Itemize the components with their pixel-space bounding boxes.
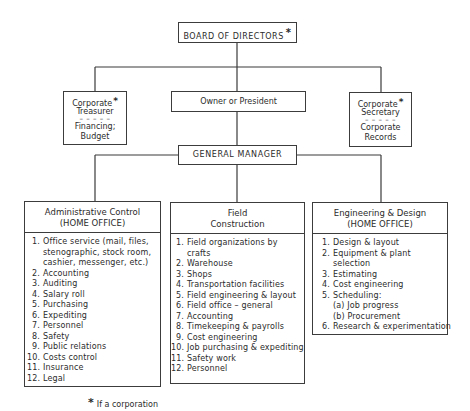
department-duty-list: 1.Office service (mail, files,stenograph… (25, 233, 160, 384)
item-text: Equipment & plant (333, 249, 411, 260)
list-item: 11.Insurance (27, 363, 160, 374)
item-number: 6. (171, 301, 184, 312)
item-text: Public relations (43, 342, 106, 353)
item-number: 10. (27, 353, 40, 364)
item-number: 4. (317, 280, 330, 291)
board-label: BOARD OF DIRECTORS (184, 32, 284, 41)
item-text: Scheduling: (333, 291, 400, 302)
item-text: Office service (mail, files, (43, 237, 151, 248)
department-duty-list: 1.Field organizations bycrafts 2.Warehou… (171, 234, 304, 375)
item-number: 11. (27, 363, 40, 374)
item-text: Safety (43, 332, 70, 343)
item-number: 11. (171, 354, 184, 365)
secretary-duty-line-2: Records (350, 133, 411, 143)
department-subtitle: (HOME OFFICE) (313, 219, 447, 230)
item-number: 2. (171, 259, 184, 270)
item-text: Field engineering & layout (187, 291, 296, 302)
list-item: 9.Public relations (27, 342, 160, 353)
item-number: 1. (27, 237, 40, 269)
treasurer-title-line-1: Corporate* (64, 97, 126, 107)
asterisk-icon: * (399, 97, 404, 107)
list-item: 9.Cost engineering (171, 333, 304, 344)
list-item: 10.Job purchasing & expediting (171, 343, 304, 354)
item-text: Cost engineering (333, 280, 404, 291)
item-text: Transportation facilities (187, 280, 284, 291)
department-title: Engineering & Design (313, 208, 447, 219)
item-text: selection (333, 259, 411, 270)
department-box-administrative: Administrative Control (HOME OFFICE) 1.O… (24, 201, 161, 387)
list-item: 4.Salary roll (27, 290, 160, 301)
item-text: stenographic, stock room, (43, 248, 151, 259)
list-item: 1.Design & layout (317, 238, 447, 249)
department-header: Engineering & Design (HOME OFFICE) (313, 203, 447, 234)
list-item: 2.Warehouse (171, 259, 304, 270)
corporate-secretary-box: Corporate* Secretary – – – – – Corporate… (349, 92, 412, 147)
general-manager-box: GENERAL MANAGER (178, 145, 297, 165)
department-box-field-construction: Field Construction 1.Field organizations… (170, 202, 305, 384)
item-number: 6. (317, 322, 330, 333)
list-item: 11.Safety work (171, 354, 304, 365)
list-item: 2.Accounting (27, 269, 160, 280)
item-text: Costs control (43, 353, 97, 364)
list-item: 6.Expediting (27, 311, 160, 322)
item-text: Design & layout (333, 238, 399, 249)
item-text: Safety work (187, 354, 236, 365)
list-item: 4.Cost engineering (317, 280, 447, 291)
item-number: 7. (27, 321, 40, 332)
item-text: Personnel (187, 364, 227, 375)
list-item: 8.Timekeeping & payrolls (171, 322, 304, 333)
item-text: Purchasing (43, 300, 88, 311)
list-item: 5.Scheduling:(a) Job progress(b) Procure… (317, 291, 447, 323)
department-duty-list: 1.Design & layout 2.Equipment & plantsel… (313, 234, 447, 333)
owner-label: Owner or President (200, 97, 277, 106)
list-item: 3.Shops (171, 270, 304, 281)
item-number: 12. (171, 364, 184, 375)
list-item: 7.Accounting (171, 312, 304, 323)
item-text: Warehouse (187, 259, 233, 270)
item-text: Legal (43, 374, 65, 385)
list-item: 10.Costs control (27, 353, 160, 364)
item-text: Salary roll (43, 290, 85, 301)
footnote: *If a corporation (88, 396, 158, 409)
department-header: Field Construction (171, 203, 304, 234)
item-text: Insurance (43, 363, 84, 374)
list-item: 3.Estimating (317, 270, 447, 281)
footnote-text: If a corporation (97, 400, 158, 409)
item-number: 6. (27, 311, 40, 322)
item-text: Shops (187, 270, 212, 281)
item-text: Research & experimentation (333, 322, 451, 333)
item-text: Field organizations by (187, 238, 278, 249)
item-number: 10. (171, 343, 184, 354)
list-item: 12.Legal (27, 374, 160, 385)
treasurer-duty-line-2: Budget (64, 132, 126, 142)
list-item: 6.Field office – general (171, 301, 304, 312)
item-text: Expediting (43, 311, 87, 322)
list-item: 8.Safety (27, 332, 160, 343)
item-number: 8. (171, 322, 184, 333)
department-header: Administrative Control (HOME OFFICE) (25, 202, 160, 233)
item-text: cashier, messenger, etc.) (43, 258, 151, 269)
item-number: 2. (317, 249, 330, 270)
item-number: 4. (171, 280, 184, 291)
asterisk-icon: * (88, 396, 94, 409)
item-number: 5. (317, 291, 330, 323)
item-text: Field office – general (187, 301, 273, 312)
item-text: (a) Job progress (333, 301, 400, 312)
item-number: 5. (171, 291, 184, 302)
item-number: 9. (171, 333, 184, 344)
secretary-duty-line-1: Corporate (350, 123, 411, 133)
organization-chart: BOARD OF DIRECTORS* Corporate* Treasurer… (0, 0, 470, 411)
item-text: Accounting (43, 269, 89, 280)
list-item: 4.Transportation facilities (171, 280, 304, 291)
item-number: 9. (27, 342, 40, 353)
item-text: Job purchasing & expediting (187, 343, 304, 354)
item-number: 1. (317, 238, 330, 249)
list-item: 6.Research & experimentation (317, 322, 447, 333)
item-text: Cost engineering (187, 333, 258, 344)
list-item: 2.Equipment & plantselection (317, 249, 447, 270)
item-number: 5. (27, 300, 40, 311)
list-item: 1.Office service (mail, files,stenograph… (27, 237, 160, 269)
item-text: (b) Procurement (333, 312, 400, 323)
general-manager-label: GENERAL MANAGER (193, 150, 283, 159)
department-title: Administrative Control (25, 207, 160, 218)
